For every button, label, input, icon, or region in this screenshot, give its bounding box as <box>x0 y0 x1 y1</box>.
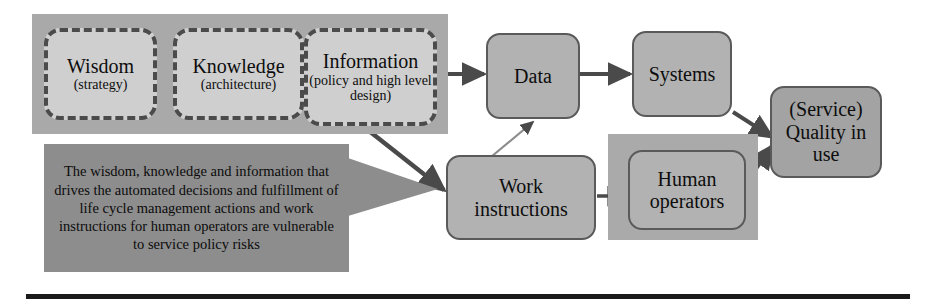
callout-pointer <box>348 158 438 216</box>
stage-box-knowledge[interactable]: Knowledge (architecture) <box>173 28 304 120</box>
process-label-service-quality: (Service) Quality in use <box>778 98 874 165</box>
stage-subtitle-knowledge: (architecture) <box>192 77 284 93</box>
stage-title-information: Information <box>323 50 419 72</box>
stage-title-wisdom: Wisdom <box>67 55 134 77</box>
diagram-canvas: Wisdom (strategy) Knowledge (architectur… <box>0 0 928 307</box>
process-box-human-operators[interactable]: Human operators <box>628 150 746 230</box>
stage-subtitle-wisdom: (strategy) <box>67 77 134 93</box>
process-label-work-instructions: Work instructions <box>456 175 586 220</box>
process-box-work-instructions[interactable]: Work instructions <box>446 155 596 240</box>
process-label-systems: Systems <box>649 63 716 85</box>
process-box-data[interactable]: Data <box>486 33 580 119</box>
stage-box-wisdom[interactable]: Wisdom (strategy) <box>44 28 157 120</box>
stage-subtitle-information: (policy and high level design) <box>308 73 433 104</box>
stage-box-information[interactable]: Information (policy and high level desig… <box>304 28 437 126</box>
stage-title-knowledge: Knowledge <box>192 55 284 77</box>
process-label-human-operators: Human operators <box>636 168 738 213</box>
process-box-systems[interactable]: Systems <box>632 31 732 117</box>
process-label-data: Data <box>514 65 552 87</box>
risk-callout: The wisdom, knowledge and information th… <box>44 144 349 272</box>
process-box-service-quality[interactable]: (Service) Quality in use <box>770 86 882 178</box>
risk-callout-text: The wisdom, knowledge and information th… <box>52 162 341 253</box>
bottom-divider-rule <box>26 294 910 299</box>
